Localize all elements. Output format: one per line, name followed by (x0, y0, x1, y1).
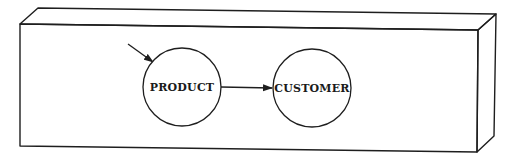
incoming-arrow (128, 44, 153, 62)
box-container (20, 8, 496, 152)
product-label: PRODUCT (150, 81, 215, 94)
diagram-svg: PRODUCT CUSTOMER (0, 0, 515, 158)
node-customer: CUSTOMER (273, 49, 351, 127)
box-right-face (477, 14, 496, 152)
node-product: PRODUCT (143, 48, 221, 126)
product-to-customer-arrow (221, 87, 272, 88)
diagram-canvas: PRODUCT CUSTOMER (0, 0, 515, 158)
customer-label: CUSTOMER (274, 82, 350, 95)
